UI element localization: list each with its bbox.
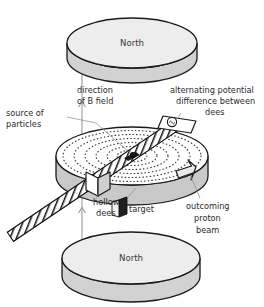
label-beam-line1: outcoming (186, 201, 230, 211)
top-magnet-label: North (120, 38, 144, 48)
top-magnet-pole: North (67, 18, 197, 83)
label-hollow-line1: hollow (93, 197, 120, 207)
label-alternating-line1: alternating potential (170, 85, 254, 95)
ac-source-icon (167, 117, 176, 126)
bottom-magnet-pole: North (62, 232, 200, 302)
label-b-field-line1: direction (77, 85, 113, 95)
label-target: target (129, 204, 155, 214)
dee-assembly (7, 116, 208, 241)
diagram-canvas: North North (0, 0, 264, 307)
label-beam-line3: beam (196, 225, 219, 235)
leader-alternating-potential (178, 113, 181, 118)
cyclotron-diagram: North North (0, 0, 264, 307)
label-source-line1: source of (6, 108, 45, 118)
bottom-magnet-label: North (119, 253, 143, 263)
label-alternating-line2: difference between (176, 96, 255, 106)
label-alternating-line3: dees (205, 107, 225, 117)
label-beam-line2: proton (194, 213, 221, 223)
label-source-line2: particles (6, 119, 41, 129)
label-hollow-line2: dees (96, 208, 116, 218)
label-b-field-line2: of B field (77, 96, 113, 106)
